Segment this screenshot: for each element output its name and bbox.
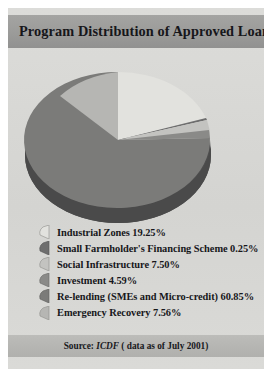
legend-swatch-small-farmholder [37, 241, 50, 255]
legend-label: Investment 4.59% [57, 275, 137, 286]
legend-swatch-emergency-recovery [37, 306, 50, 320]
legend-item[interactable]: Social Infrastructure 7.50% [8, 256, 264, 272]
legend-label: Small Farmholder's Financing Scheme 0.25… [57, 243, 258, 254]
title-bar: Program Distribution of Approved Loans [8, 15, 264, 48]
chart-card: Program Distribution of Approved Loans [8, 8, 264, 369]
source-note: Source: ICDF ( data as of July 2001) [64, 341, 209, 351]
legend-item[interactable]: Small Farmholder's Financing Scheme 0.25… [8, 240, 264, 256]
source-note-text: ( data as of July 2001) [121, 341, 208, 351]
pie-chart-svg [8, 52, 264, 224]
legend-item[interactable]: Emergency Recovery 7.56% [8, 304, 264, 320]
page-title: Program Distribution of Approved Loans [19, 23, 264, 40]
footer-bar: Source: ICDF ( data as of July 2001) [8, 335, 264, 357]
source-name: ICDF [96, 341, 119, 351]
legend-item[interactable]: Investment 4.59% [8, 272, 264, 288]
legend: Industrial Zones 19.25% Small Farmholder… [8, 224, 264, 321]
legend-swatch-industrial-zones [37, 225, 50, 239]
pie-chart [8, 52, 264, 224]
legend-label: Emergency Recovery 7.56% [57, 307, 181, 318]
legend-label: Industrial Zones 19.25% [57, 227, 166, 238]
legend-item[interactable]: Industrial Zones 19.25% [8, 224, 264, 240]
legend-item[interactable]: Re-lending (SMEs and Micro-credit) 60.85… [8, 288, 264, 304]
legend-swatch-re-lending [37, 289, 50, 303]
legend-label: Re-lending (SMEs and Micro-credit) 60.85… [57, 291, 254, 302]
legend-swatch-social-infrastructure [37, 257, 50, 271]
pie-slices [24, 72, 210, 208]
legend-swatch-investment [37, 273, 50, 287]
legend-label: Social Infrastructure 7.50% [57, 259, 180, 270]
source-prefix: Source: [64, 341, 94, 351]
